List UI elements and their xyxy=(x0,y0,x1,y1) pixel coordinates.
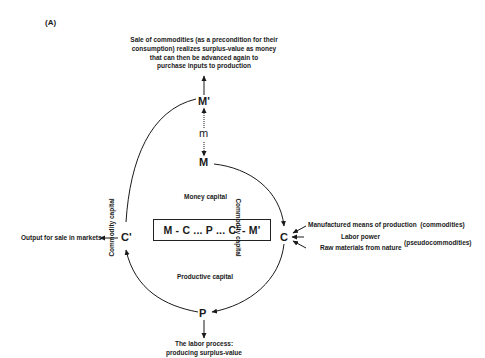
node-c: C xyxy=(280,231,288,243)
bottom-note-line: The labor process: xyxy=(154,340,254,349)
input-manufactured: Manufactured means of production (commod… xyxy=(308,221,465,230)
label-commodity-capital-left: Commodity capital xyxy=(107,198,114,256)
tag-commodities: (commodities) xyxy=(420,221,464,228)
tag-pseudocommodities: (pseudocommodities) xyxy=(404,239,472,248)
arrow-manufactured-to-C xyxy=(293,226,306,233)
node-m: M xyxy=(199,156,208,168)
panel-label: (A) xyxy=(45,18,56,27)
arrow-raw-to-C xyxy=(293,241,306,248)
bottom-note-line: producing surplus-value xyxy=(154,349,254,358)
bottom-note: The labor process: producing surplus-val… xyxy=(154,340,254,358)
top-note-line: consumption) realizes surplus-value as m… xyxy=(124,45,284,54)
top-note-line: purchase inputs to production xyxy=(124,62,284,71)
input-manufactured-label: Manufactured means of production xyxy=(308,221,417,228)
top-note-line: that can then be advanced again to xyxy=(124,54,284,63)
node-m-surplus: m xyxy=(199,127,208,139)
input-labor-power: Labor power xyxy=(341,233,380,242)
node-c-prime: C' xyxy=(121,231,132,243)
node-p: P xyxy=(199,307,206,319)
input-raw-materials: Raw materials from nature xyxy=(320,244,402,253)
circuit-formula: M - C ... P ... C' - M' xyxy=(153,219,271,241)
label-money-capital: Money capital xyxy=(184,193,227,202)
label-productive-capital: Productive capital xyxy=(177,273,233,282)
label-commodity-capital-right: Commodity capital xyxy=(234,198,241,256)
top-note: Sale of commodities (as a precondition f… xyxy=(124,36,284,71)
arc-Cprime-to-Mprime xyxy=(126,99,196,222)
output-label: Output for sale in markets xyxy=(21,234,102,243)
top-note-line: Sale of commodities (as a precondition f… xyxy=(124,36,284,45)
node-m-prime: M' xyxy=(198,95,210,107)
